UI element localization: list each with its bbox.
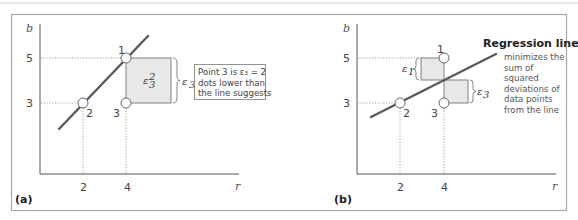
note-line-3: the line suggests xyxy=(198,88,272,98)
annotation-line-2: sum of xyxy=(504,63,534,73)
point-label-1: 1 xyxy=(437,43,444,56)
annotation-line-4: deviations of xyxy=(504,84,560,94)
panel-label-a: (a) xyxy=(15,193,32,206)
e1-label: ε xyxy=(402,63,407,74)
point-label-3: 3 xyxy=(113,107,120,120)
point-label-2: 2 xyxy=(403,107,410,120)
x-tick-2: 2 xyxy=(80,181,87,194)
x-axis-label: r xyxy=(552,180,558,193)
annotation-line-5: data points xyxy=(504,94,553,104)
y-tick-3: 3 xyxy=(26,97,33,110)
square-label: ε xyxy=(143,75,148,86)
note-line-2: dots lower than xyxy=(198,78,265,88)
panel-label-b: (b) xyxy=(334,193,352,206)
brace-label: ε xyxy=(182,76,187,87)
y-tick-5: 5 xyxy=(343,52,350,65)
x-axis-label: r xyxy=(235,180,241,193)
y-tick-3: 3 xyxy=(343,97,350,110)
data-point-3 xyxy=(121,98,131,108)
square-sub: 3 xyxy=(149,79,155,90)
x-tick-4: 4 xyxy=(124,181,131,194)
point-label-2: 2 xyxy=(86,107,93,120)
point-label-3: 3 xyxy=(431,107,438,120)
x-tick-4: 4 xyxy=(441,181,448,194)
note-line-1: Point 3 is ε₃ = 2 xyxy=(198,67,266,77)
y-tick-5: 5 xyxy=(26,52,33,65)
annotation-line-6: from the line xyxy=(504,105,559,115)
annotation-line-1: minimizes the xyxy=(504,52,564,62)
annotation-line-3: squared xyxy=(504,73,539,83)
e1-sub: 1 xyxy=(408,66,414,77)
regression-title: Regression line xyxy=(483,37,578,50)
data-point-3 xyxy=(439,98,449,108)
point-label-1: 1 xyxy=(118,44,125,57)
y-axis-label: b xyxy=(343,22,350,35)
regression-figure: b r 5 3 2 4 ε 2 3 ε 3 Point 3 is ε₃ = 2 … xyxy=(0,0,578,220)
e3-label: ε xyxy=(477,86,482,97)
e3-sub: 3 xyxy=(483,89,489,100)
y-axis-label: b xyxy=(26,22,33,35)
x-tick-2: 2 xyxy=(397,181,404,194)
